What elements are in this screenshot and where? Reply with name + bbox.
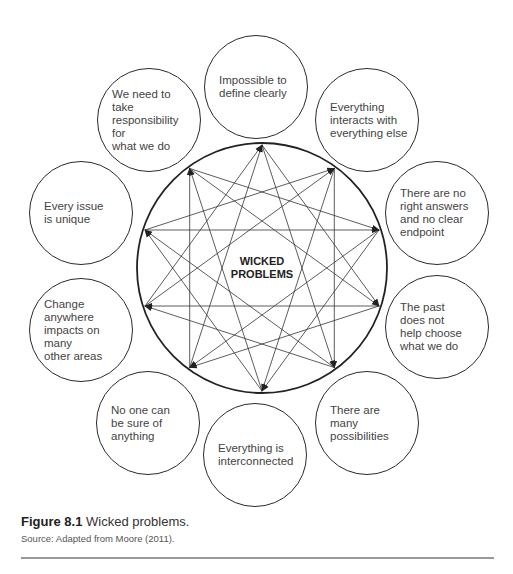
node-change-anywhere: Change anywhere impacts on many other ar… [29,278,133,382]
figure-caption: Figure 8.1 Wicked problems. [21,514,189,529]
figure-title: Wicked problems. [82,514,189,529]
node-no-right-answers: There are no right answers and no clear … [385,161,489,265]
node-label: The past does not help choose what we do [386,301,468,353]
node-label: There are many possibilities [316,404,395,443]
node-label: There are no right answers and no clear … [386,187,474,239]
wicked-problems-diagram: Impossible to define clearlyEverything i… [0,0,513,520]
node-interacts: Everything interacts with everything els… [315,68,419,172]
node-label: Change anywhere impacts on many other ar… [30,298,132,363]
node-label: We need to take responsibility for what … [98,88,200,153]
node-unique: Every issue is unique [29,161,133,265]
node-possibilities: There are many possibilities [315,371,419,475]
node-label: No one can be sure of anything [97,404,176,443]
node-past: The past does not help choose what we do [385,275,489,379]
node-impossible: Impossible to define clearly [204,35,308,139]
node-label: Everything interacts with everything els… [316,101,413,140]
node-label: Everything is interconnected [204,442,299,468]
divider [21,557,494,559]
center-label: WICKED PROBLEMS [212,255,312,281]
figure-label: Figure 8.1 [21,514,82,529]
node-responsibility: We need to take responsibility for what … [97,68,201,172]
node-label: Impossible to define clearly [205,74,293,100]
node-interconnected: Everything is interconnected [203,403,307,507]
figure-source: Source: Adapted from Moore (2011). [21,533,175,544]
node-no-one-sure: No one can be sure of anything [96,371,200,475]
node-label: Every issue is unique [30,200,109,226]
